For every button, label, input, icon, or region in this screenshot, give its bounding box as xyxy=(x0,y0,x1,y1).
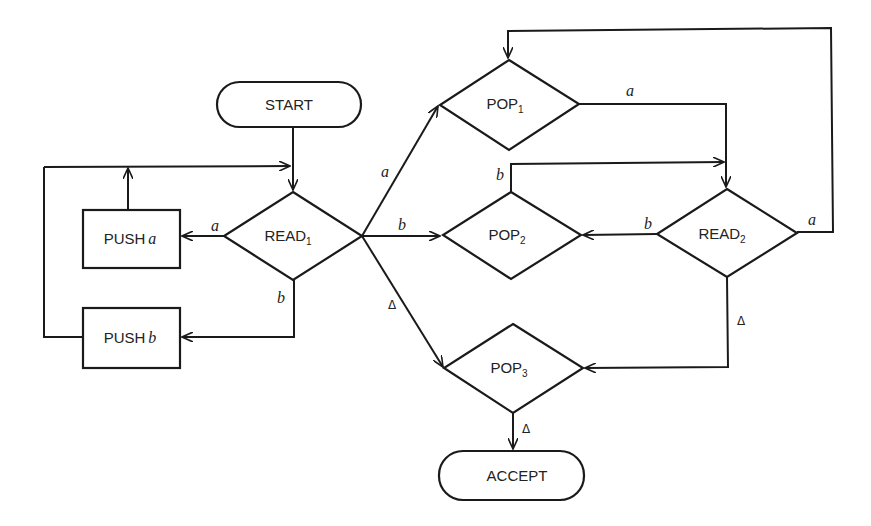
edge-pop1-read2 xyxy=(579,104,726,187)
svg-text:PUSHb: PUSHb xyxy=(104,329,157,346)
node-push-b-label: PUSH xyxy=(104,329,146,346)
node-start: START xyxy=(217,82,361,127)
node-push-b: PUSHb xyxy=(83,308,180,368)
node-pop3: POP3 xyxy=(444,324,583,413)
label-read2-pop2: b xyxy=(644,215,652,232)
node-push-a: PUSHa xyxy=(83,210,180,268)
node-start-label: START xyxy=(265,96,313,113)
edge-read1-pop3 xyxy=(362,236,443,367)
label-pop3-accept: Δ xyxy=(522,422,531,436)
node-read2: READ2 xyxy=(657,189,797,277)
flowchart-canvas: START READ1 PUSHa PUSHb POP1 POP2 REA xyxy=(0,0,871,526)
label-read1-pop2: b xyxy=(398,216,406,233)
node-pop3-label: POP xyxy=(490,359,522,376)
node-push-a-label: PUSH xyxy=(104,230,146,247)
label-read1-pop3: Δ xyxy=(388,298,397,312)
label-read1-push-b: b xyxy=(277,289,285,306)
node-pop2-label: POP xyxy=(488,226,520,243)
node-pop1-label: POP xyxy=(486,95,518,112)
edge-read2-pop3 xyxy=(585,277,728,368)
node-accept: ACCEPT xyxy=(439,451,584,500)
label-read1-pop1: a xyxy=(381,163,389,180)
label-read1-push-a: a xyxy=(211,217,219,234)
edge-read2-pop1 xyxy=(508,28,833,232)
edge-loop-to-read1 xyxy=(44,166,290,167)
node-accept-label: ACCEPT xyxy=(487,467,548,484)
node-pop1: POP1 xyxy=(440,60,579,150)
edge-push-b-loop xyxy=(44,167,83,337)
svg-text:PUSHa: PUSHa xyxy=(104,230,157,247)
node-read1: READ1 xyxy=(224,192,362,280)
edge-read2-pop2 xyxy=(583,234,657,235)
edge-pop2-read2 xyxy=(511,162,724,192)
label-read2-pop1: a xyxy=(808,211,816,228)
label-read2-pop3: Δ xyxy=(737,314,746,328)
node-pop2: POP2 xyxy=(443,192,581,279)
node-read2-label: READ xyxy=(698,225,740,242)
label-pop2-read2: b xyxy=(496,166,504,183)
node-read1-label: READ xyxy=(264,227,306,244)
label-pop1-read2: a xyxy=(626,82,634,99)
